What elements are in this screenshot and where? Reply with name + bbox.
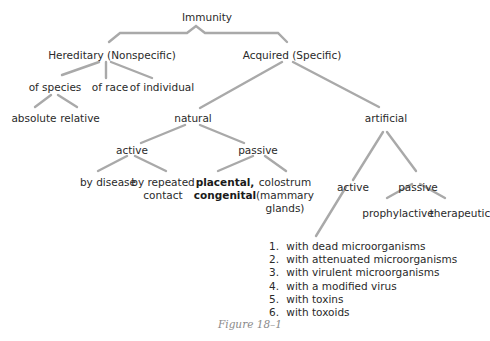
active-immunization-methods-list: 1. with dead microorganisms 2. with atte…: [269, 240, 457, 319]
node-relative: relative: [60, 112, 100, 125]
node-of-race: of race: [92, 81, 128, 94]
list-text: with toxoids: [286, 306, 349, 318]
list-number: 1.: [269, 240, 283, 253]
node-natural-passive: passive: [238, 144, 278, 157]
list-item: 5. with toxins: [269, 293, 457, 306]
node-placental-congenital: placental, congenital: [194, 176, 256, 202]
node-artificial-passive: passive: [398, 181, 438, 194]
node-therapeutic: therapeutic: [430, 207, 490, 220]
list-number: 5.: [269, 293, 283, 306]
node-prophylactive: prophylactive: [362, 207, 434, 220]
list-text: with attenuated microorganisms: [286, 253, 457, 265]
node-natural: natural: [174, 112, 212, 125]
list-text: with a modified virus: [286, 280, 396, 292]
list-number: 3.: [269, 266, 283, 279]
figure-caption: Figure 18–1: [218, 318, 282, 330]
node-of-species: of species: [29, 81, 82, 94]
list-text: with dead microorganisms: [286, 240, 425, 252]
list-item: 4. with a modified virus: [269, 280, 457, 293]
list-text: with toxins: [286, 293, 343, 305]
list-item: 1. with dead microorganisms: [269, 240, 457, 253]
list-text: with virulent microorganisms: [286, 266, 439, 278]
node-by-disease: by disease: [80, 176, 136, 189]
node-artificial: artificial: [365, 112, 407, 125]
node-hereditary: Hereditary (Nonspecific): [48, 49, 176, 62]
list-item: 2. with attenuated microorganisms: [269, 253, 457, 266]
node-by-repeated-contact: by repeated contact: [131, 176, 195, 202]
node-immunity: Immunity: [182, 11, 232, 24]
list-item: 3. with virulent microorganisms: [269, 266, 457, 279]
list-number: 4.: [269, 280, 283, 293]
list-item: 6. with toxoids: [269, 306, 457, 319]
node-acquired: Acquired (Specific): [243, 49, 342, 62]
list-number: 2.: [269, 253, 283, 266]
node-absolute: absolute: [11, 112, 56, 125]
node-natural-active: active: [116, 144, 148, 157]
node-of-individual: of individual: [130, 81, 194, 94]
node-artificial-active: active: [337, 181, 369, 194]
node-colostrum: colostrum (mammary glands): [256, 176, 314, 215]
